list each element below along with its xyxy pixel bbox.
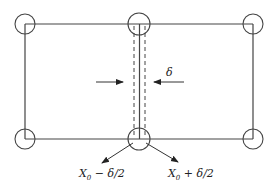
diagram-canvas: δ X0 − δ/2 X0 + δ/2 <box>0 0 279 185</box>
delta-label: δ <box>166 66 173 79</box>
left-position-arrow-icon <box>102 143 133 163</box>
right-position-label: X0 + δ/2 <box>167 167 214 182</box>
left-position-label: X0 − δ/2 <box>78 167 125 182</box>
right-position-arrow-icon <box>146 143 178 162</box>
